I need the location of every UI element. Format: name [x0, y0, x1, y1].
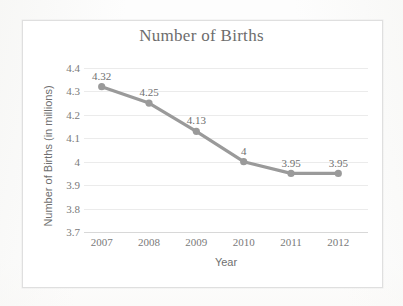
data-point-label: 4 [222, 145, 266, 157]
x-tick-label: 2007 [77, 236, 127, 248]
data-point-label: 4.13 [174, 114, 218, 126]
x-tick-label: 2012 [313, 236, 363, 248]
x-tick-label: 2010 [219, 236, 269, 248]
gridline [84, 138, 368, 139]
data-point-label: 3.95 [316, 157, 360, 169]
data-point-label: 3.95 [269, 157, 313, 169]
x-axis-title: Year [84, 256, 368, 268]
gridline [84, 68, 368, 69]
gridline [84, 115, 368, 116]
x-tick-label: 2009 [171, 236, 221, 248]
x-tick-label: 2008 [124, 236, 174, 248]
x-axis-line [84, 232, 368, 233]
gridline [84, 185, 368, 186]
gridline [84, 209, 368, 210]
data-point-label: 4.25 [127, 86, 171, 98]
y-axis-title: Number of Births (in millions) [42, 66, 54, 246]
x-tick-label: 2011 [266, 236, 316, 248]
chart-screenshot: Number of Births 4.44.34.24.143.93.83.7 … [0, 0, 403, 306]
data-point-label: 4.32 [80, 70, 124, 82]
